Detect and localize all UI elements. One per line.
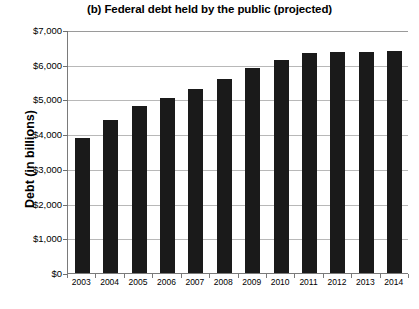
y-axis-tick-label: $1,000 <box>0 234 62 244</box>
bar <box>217 79 232 273</box>
y-axis-tick-label: $2,000 <box>0 200 62 210</box>
bar <box>75 138 90 273</box>
y-axis-tick-label: $4,000 <box>0 130 62 140</box>
chart-title: (b) Federal debt held by the public (pro… <box>0 3 419 15</box>
bar <box>302 53 317 273</box>
y-axis-tick-label: $0 <box>0 269 62 279</box>
bar <box>188 89 203 273</box>
chart-figure: (b) Federal debt held by the public (pro… <box>0 0 419 309</box>
x-axis-tick-label: 2014 <box>374 277 414 287</box>
bar <box>330 52 345 273</box>
bar-series <box>68 31 408 273</box>
bar <box>132 106 147 273</box>
y-axis-tick-label: $3,000 <box>0 165 62 175</box>
plot-area <box>67 31 408 274</box>
bar <box>274 60 289 273</box>
y-axis-tick-labels: $0$1,000$2,000$3,000$4,000$5,000$6,000$7… <box>0 31 63 274</box>
x-axis-tick-labels: 2003200420052006200720082009201020112012… <box>67 277 408 293</box>
bar <box>160 98 175 273</box>
y-axis-tick-label: $5,000 <box>0 95 62 105</box>
bar <box>245 68 260 273</box>
y-axis-tick-label: $7,000 <box>0 26 62 36</box>
bar <box>387 51 402 273</box>
bar <box>359 52 374 273</box>
y-axis-tick-label: $6,000 <box>0 61 62 71</box>
bar <box>103 120 118 273</box>
